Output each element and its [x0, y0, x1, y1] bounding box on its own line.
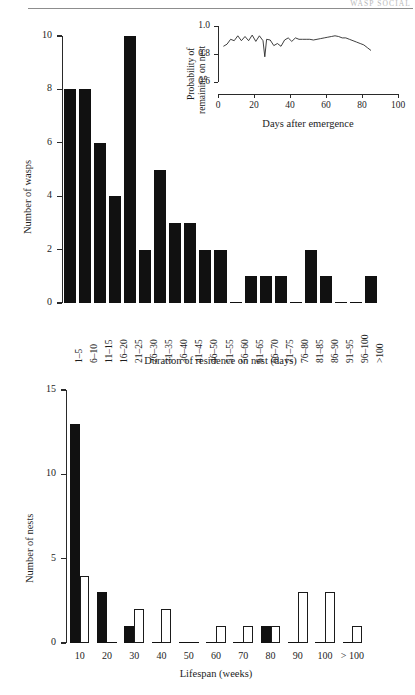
top-chart-bar-zero — [335, 302, 347, 303]
bottom-chart-y-tick — [61, 474, 66, 475]
bottom-chart-bar-filled — [97, 592, 107, 643]
bottom-chart-bar-filled — [124, 626, 134, 643]
bottom-chart-plot-area: 051015102030405060708090100> 100 — [66, 390, 366, 643]
bottom-chart-bar-open — [161, 609, 171, 643]
inset-x-tick-label: 80 — [357, 100, 367, 110]
bottom-chart-bar-zero — [315, 642, 325, 643]
top-chart-y-tick — [57, 249, 62, 250]
top-chart-bar — [139, 250, 151, 303]
top-chart-bar — [154, 170, 166, 304]
inset-x-tick — [326, 94, 327, 98]
top-chart-bar — [94, 143, 106, 303]
top-chart-bar — [214, 250, 226, 303]
running-head-text: WASP SOCIAL — [350, 0, 411, 8]
top-chart-bar-zero — [230, 302, 242, 303]
top-chart-bar — [79, 89, 91, 303]
bottom-chart-bar-zero — [288, 642, 298, 643]
top-chart-bar-zero — [290, 302, 302, 303]
figure-page: WASP SOCIAL Number of wasps 0246810 1–56… — [0, 0, 415, 695]
bottom-chart-bar-zero — [107, 642, 117, 643]
bottom-chart-bar-open — [352, 626, 362, 643]
inset-x-tick-label: 0 — [216, 100, 221, 110]
top-chart-y-tick-label: 2 — [47, 243, 52, 254]
bottom-chart-y-axis-title: Number of nests — [24, 514, 35, 583]
bottom-chart-x-axis-title: Lifespan (weeks) — [66, 668, 366, 679]
top-chart-y-axis-title: Number of wasps — [22, 160, 33, 234]
inset-y-tick-label: 0.6 — [198, 76, 210, 86]
top-chart-bar — [365, 276, 377, 303]
inset-x-tick-label: 20 — [249, 100, 259, 110]
bottom-chart-bar-open — [325, 592, 335, 643]
top-chart-y-tick — [57, 196, 62, 197]
top-chart-bar — [320, 276, 332, 303]
inset-x-tick — [290, 94, 291, 98]
bottom-chart-bar-open — [271, 626, 281, 643]
top-chart-bar — [245, 276, 257, 303]
top-chart-bar — [184, 223, 196, 303]
bottom-chart-bar-filled — [70, 424, 80, 643]
bottom-chart-category-label: 20 — [102, 650, 112, 661]
top-chart-y-tick — [57, 35, 62, 36]
inset-x-tick-label: 100 — [391, 100, 405, 110]
top-chart-bar — [124, 36, 136, 303]
top-chart-bar — [305, 250, 317, 303]
inset-x-tick — [254, 94, 255, 98]
running-head: WASP SOCIAL — [28, 0, 413, 12]
top-chart-y-tick-label: 4 — [47, 189, 52, 200]
bottom-chart-y-tick — [61, 389, 66, 390]
bottom-chart-bar-open — [298, 592, 308, 643]
bottom-chart-y-tick — [61, 642, 66, 643]
top-chart-bar — [199, 250, 211, 303]
top-chart-bar — [64, 89, 76, 303]
bottom-chart-category-label: 60 — [211, 650, 221, 661]
bottom-chart-category-label: 30 — [129, 650, 139, 661]
bottom-chart-category-label: > 100 — [341, 650, 364, 661]
inset-x-tick-label: 40 — [285, 100, 295, 110]
top-chart-bar — [260, 276, 272, 303]
bottom-chart-bar-open — [80, 576, 90, 643]
bottom-chart-category-label: 40 — [156, 650, 166, 661]
inset-survival-line — [218, 26, 398, 82]
inset-y-tick-label: 0.8 — [198, 48, 210, 58]
inset-plot-area: 0.60.81.0020406080100 — [218, 26, 398, 82]
bottom-chart-bar-open — [134, 609, 144, 643]
top-chart-bar — [275, 276, 287, 303]
inset-probability-chart: Probability of remaining on nest 0.60.81… — [184, 22, 412, 140]
bottom-chart-bar-zero — [206, 642, 216, 643]
inset-y-tick-label: 1.0 — [198, 20, 210, 30]
bottom-chart-y-tick — [61, 558, 66, 559]
inset-x-tick — [362, 94, 363, 98]
bottom-chart-category-label: 90 — [293, 650, 303, 661]
bottom-chart-bar-zero — [233, 642, 243, 643]
bottom-chart-category-label: 100 — [318, 650, 333, 661]
top-chart-y-tick-label: 8 — [47, 82, 52, 93]
inset-x-axis-line — [218, 94, 398, 95]
bottom-chart-y-axis-line — [66, 390, 67, 643]
bottom-chart-bar-open — [216, 626, 226, 643]
top-chart-bar-zero — [350, 302, 362, 303]
bottom-chart-y-tick-label: 0 — [51, 636, 56, 647]
bottom-chart-category-label: 10 — [75, 650, 85, 661]
bottom-chart-bar-open — [243, 626, 253, 643]
inset-x-axis-title: Days after emergence — [218, 118, 398, 129]
top-chart-bar — [109, 196, 121, 303]
bottom-chart-y-tick-label: 10 — [46, 467, 56, 478]
top-chart-y-tick — [57, 142, 62, 143]
figure-nest-lifespan: Number of nests 051015102030405060708090… — [0, 378, 415, 695]
bottom-chart-category-label: 80 — [266, 650, 276, 661]
running-head-rule — [28, 8, 413, 9]
top-chart-y-tick-label: 0 — [47, 296, 52, 307]
figure-duration-of-residence: Number of wasps 0246810 1–56–1011–1516–2… — [0, 14, 415, 379]
bottom-chart-category-label: 70 — [238, 650, 248, 661]
inset-x-tick — [218, 94, 219, 98]
bottom-chart-bar-zero — [343, 642, 353, 643]
bottom-chart-category-label: 50 — [184, 650, 194, 661]
inset-x-tick-label: 60 — [321, 100, 331, 110]
top-chart-y-tick — [57, 89, 62, 90]
bottom-chart-y-tick-label: 15 — [46, 383, 56, 394]
bottom-chart-bar-zero — [179, 642, 189, 643]
bottom-chart-bar-zero — [189, 642, 199, 643]
bottom-chart-y-tick-label: 5 — [51, 552, 56, 563]
top-chart-y-tick-label: 10 — [42, 29, 52, 40]
top-chart-y-tick — [57, 302, 62, 303]
